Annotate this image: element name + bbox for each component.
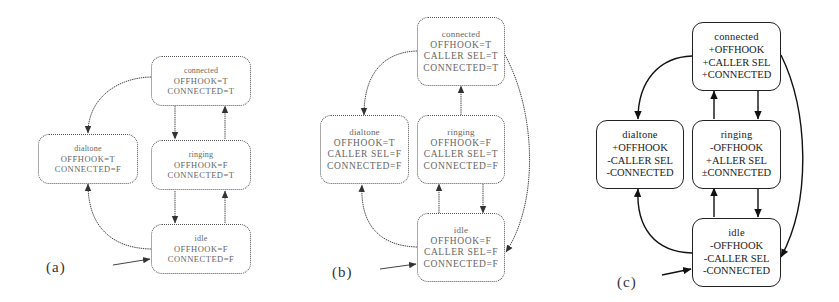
state-connected: connected +OFFHOOK +CALLER SEL +CONNECTE… bbox=[692, 22, 781, 91]
state-ringing: ringing -OFFHOOK +ALLER SEL ±CONNECTED bbox=[692, 120, 781, 189]
state-name: connected bbox=[714, 31, 758, 44]
state-var: +ALLER SEL bbox=[706, 155, 767, 168]
state-var: -CALLER SEL bbox=[607, 155, 673, 168]
state-var: -OFFHOOK bbox=[710, 240, 763, 253]
state-dialtone: dialtone +OFFHOOK -CALLER SEL -CONNECTED bbox=[596, 120, 684, 189]
state-var: +OFFHOOK bbox=[612, 142, 668, 155]
state-var: +CALLER SEL bbox=[702, 57, 770, 70]
state-idle: idle -OFFHOOK -CALLER SEL -CONNECTED bbox=[692, 218, 781, 287]
panel-label: (c) bbox=[617, 274, 637, 291]
state-name: idle bbox=[728, 227, 745, 240]
diagram-panel-c: connected +OFFHOOK +CALLER SEL +CONNECTE… bbox=[0, 0, 839, 302]
state-var: +CONNECTED bbox=[702, 69, 772, 82]
state-var: -CONNECTED bbox=[703, 265, 770, 278]
state-var: +OFFHOOK bbox=[709, 44, 765, 57]
state-name: ringing bbox=[721, 129, 753, 142]
state-var: ±CONNECTED bbox=[702, 167, 771, 180]
state-name: dialtone bbox=[622, 129, 657, 142]
state-var: -CONNECTED bbox=[606, 167, 673, 180]
state-var: -OFFHOOK bbox=[710, 142, 763, 155]
state-var: -CALLER SEL bbox=[704, 253, 770, 266]
